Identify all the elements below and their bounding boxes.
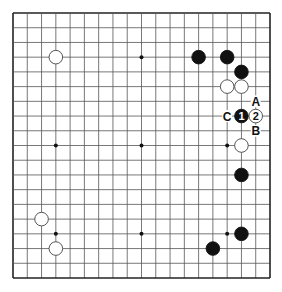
white-stone [235,80,249,94]
star-point [54,144,58,148]
stone-disc [206,242,220,256]
star-point [54,232,58,236]
stones: 12 [35,50,263,255]
move-number: 1 [238,110,244,122]
stone-disc [235,168,249,182]
black-stone [235,227,249,241]
star-point [225,232,229,236]
star-point [140,144,144,148]
white-stone [235,139,249,153]
marker-label-a: A [251,95,260,109]
move-number: 2 [253,110,259,122]
stone-disc [235,80,249,94]
white-stone [220,80,234,94]
stone-disc [235,65,249,79]
black-stone [235,168,249,182]
black-stone [192,50,206,64]
go-board: 12 ABC [0,0,282,292]
stone-disc [220,80,234,94]
white-stone: 2 [249,109,263,123]
marker-label-b: B [251,124,260,138]
stone-disc [235,139,249,153]
star-point [140,232,144,236]
stone-disc [35,212,49,226]
marker-label-c: C [223,110,232,124]
stone-disc [49,50,63,64]
stone-disc [192,50,206,64]
black-stone [235,65,249,79]
stone-disc [235,227,249,241]
stone-disc [49,242,63,256]
white-stone [49,242,63,256]
black-stone: 1 [235,109,249,123]
star-point [140,55,144,59]
white-stone [49,50,63,64]
black-stone [206,242,220,256]
star-point [225,144,229,148]
white-stone [35,212,49,226]
black-stone [220,50,234,64]
stone-disc [220,50,234,64]
